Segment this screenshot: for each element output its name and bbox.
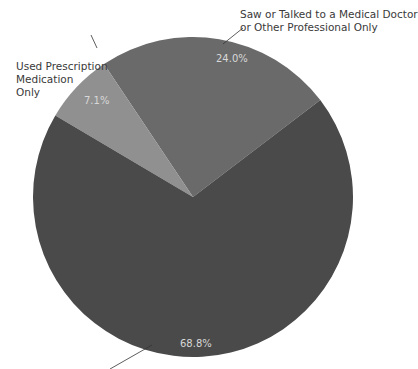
leader-line-other — [110, 345, 152, 369]
pct-doctor: 24.0% — [216, 53, 248, 64]
leader-line-rx — [91, 35, 97, 48]
label-doctor: Saw or Talked to a Medical Doctor or Oth… — [240, 8, 418, 34]
pct-other: 68.8% — [180, 338, 212, 349]
label-prescription: Used Prescription Medication Only — [16, 60, 108, 99]
pct-prescription: 7.1% — [84, 95, 109, 106]
